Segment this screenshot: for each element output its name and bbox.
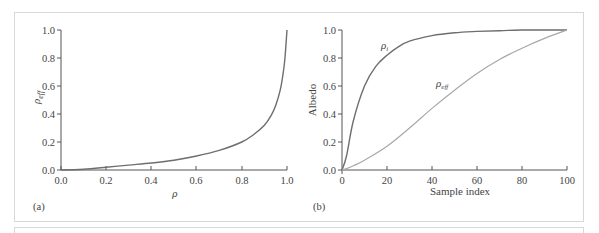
chart-a-ytick: 0.4 (42, 109, 56, 120)
chart-b-x-ticks: 0 20 40 60 80 100 (339, 166, 575, 186)
chart-a-ytick: 0.0 (42, 165, 55, 176)
chart-a-curve-rho-eff (61, 30, 287, 170)
chart-a-ytick: 0.6 (42, 81, 55, 92)
chart-b-curve-rho-i (342, 30, 567, 170)
annotation-rho-eff: ρeff (435, 77, 449, 91)
chart-b-ytick: 0.8 (323, 53, 336, 64)
chart-b-xtick: 20 (382, 175, 393, 186)
annotation-rho-i: ρi (380, 39, 388, 53)
chart-a-xlabel: ρ (171, 187, 177, 199)
chart-b-ytick: 0.4 (323, 109, 337, 120)
chart-b-xlabel: Sample index (430, 185, 491, 197)
panel-label-a: (a) (33, 201, 45, 213)
chart-b-curve-rho-eff (342, 30, 567, 170)
chart-b-xtick: 0 (339, 175, 344, 186)
chart-a-xtick: 0.4 (144, 175, 158, 186)
chart-b: 0.0 0.2 0.4 0.6 0.8 1.0 0 20 40 60 80 10… (306, 25, 575, 213)
chart-a-ylabel: ρeff (30, 89, 45, 105)
chart-b-ytick: 1.0 (323, 25, 336, 36)
chart-a-y-ticks: 0.0 0.2 0.4 0.6 0.8 1.0 (42, 25, 61, 176)
chart-b-ytick: 0.6 (323, 81, 336, 92)
panel-label-b: (b) (313, 201, 326, 213)
figure-svg: 0.0 0.2 0.4 0.6 0.8 1.0 0.0 0.2 0.4 0.6 … (0, 0, 599, 233)
chart-a: 0.0 0.2 0.4 0.6 0.8 1.0 0.0 0.2 0.4 0.6 … (30, 25, 294, 213)
chart-b-xtick: 80 (517, 175, 528, 186)
chart-a-ytick: 0.2 (42, 137, 55, 148)
chart-a-ytick: 1.0 (42, 25, 55, 36)
chart-a-xtick: 0.2 (99, 175, 112, 186)
chart-b-y-ticks: 0.0 0.2 0.4 0.6 0.8 1.0 (323, 25, 342, 176)
chart-a-xtick: 0.6 (189, 175, 202, 186)
chart-a-xtick: 0.8 (235, 175, 248, 186)
svg-text:ρeff: ρeff (30, 89, 45, 105)
chart-b-ytick: 0.0 (323, 165, 336, 176)
chart-b-ytick: 0.2 (323, 137, 336, 148)
chart-a-xtick: 1.0 (280, 175, 293, 186)
chart-b-xtick: 100 (559, 175, 575, 186)
chart-a-ytick: 0.8 (42, 53, 55, 64)
chart-a-xtick: 0.0 (54, 175, 67, 186)
chart-b-ylabel: Albedo (306, 83, 318, 116)
